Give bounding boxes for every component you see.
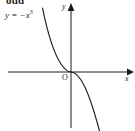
curve-equation-exponent: 3	[30, 9, 33, 15]
y-axis-label: y	[62, 2, 66, 11]
curve-equation-label: y = −x3	[5, 9, 33, 20]
origin-label: O	[62, 73, 68, 82]
y-axis-arrowhead	[68, 3, 75, 11]
function-graph-figure: odd y = −x3 y x O	[0, 0, 135, 131]
curve-equation-base: y = −x	[5, 10, 30, 20]
x-axis-label: x	[125, 74, 129, 83]
